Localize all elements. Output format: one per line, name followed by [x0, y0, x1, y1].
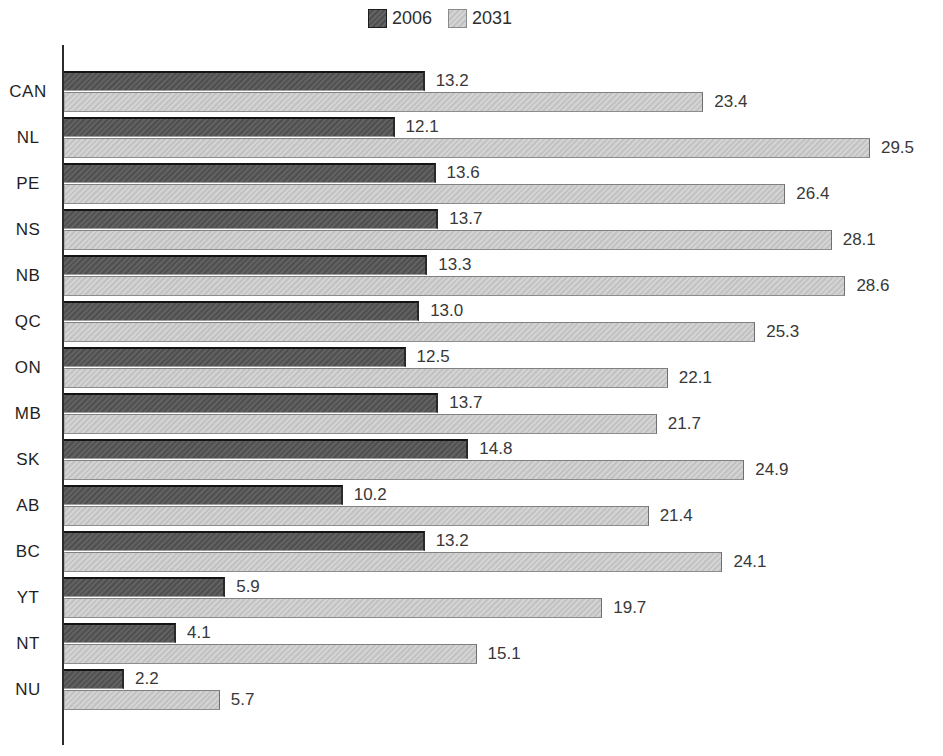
value-label: 13.6 — [447, 163, 480, 183]
bar-line-2006: 10.2 — [64, 485, 941, 505]
chart-row-QC: QC13.025.3 — [64, 301, 941, 342]
bar-line-2031: 24.9 — [64, 460, 941, 480]
bar-PE-2031 — [64, 184, 785, 204]
bar-line-2006: 14.8 — [64, 439, 941, 459]
bar-line-2031: 21.7 — [64, 414, 941, 434]
bar-line-2031: 25.3 — [64, 322, 941, 342]
bar-line-2006: 13.0 — [64, 301, 941, 321]
value-label: 14.8 — [479, 439, 512, 459]
category-label: NL — [0, 128, 56, 148]
bar-NT-2031 — [64, 644, 477, 664]
bar-ON-2006 — [64, 347, 406, 367]
bar-ON-2031 — [64, 368, 668, 388]
category-label: NS — [0, 220, 56, 240]
bar-line-2006: 5.9 — [64, 577, 941, 597]
bar-CAN-2006 — [64, 71, 425, 91]
value-label: 24.1 — [733, 552, 766, 572]
bar-MB-2031 — [64, 414, 657, 434]
category-label: NT — [0, 634, 56, 654]
bar-line-2006: 13.2 — [64, 531, 941, 551]
bar-BC-2006 — [64, 531, 425, 551]
bar-line-2031: 28.1 — [64, 230, 941, 250]
category-label: PE — [0, 174, 56, 194]
value-label: 28.6 — [856, 276, 889, 296]
category-label: NU — [0, 680, 56, 700]
bar-NU-2006 — [64, 669, 124, 689]
value-label: 24.9 — [755, 460, 788, 480]
value-label: 13.2 — [436, 71, 469, 91]
chart-row-ON: ON12.522.1 — [64, 347, 941, 388]
bar-line-2031: 26.4 — [64, 184, 941, 204]
bar-line-2006: 4.1 — [64, 623, 941, 643]
bar-line-2031: 24.1 — [64, 552, 941, 572]
chart-row-SK: SK14.824.9 — [64, 439, 941, 480]
bar-line-2031: 22.1 — [64, 368, 941, 388]
category-label: BC — [0, 542, 56, 562]
category-label: MB — [0, 404, 56, 424]
bar-YT-2006 — [64, 577, 225, 597]
bar-line-2006: 13.7 — [64, 209, 941, 229]
bar-line-2031: 19.7 — [64, 598, 941, 618]
chart-row-NB: NB13.328.6 — [64, 255, 941, 296]
chart-row-NU: NU2.25.7 — [64, 669, 941, 710]
value-label: 29.5 — [881, 138, 914, 158]
category-label: QC — [0, 312, 56, 332]
value-label: 5.7 — [231, 690, 255, 710]
bar-line-2006: 12.1 — [64, 117, 941, 137]
value-label: 5.9 — [236, 577, 260, 597]
legend-item-2006: 2006 — [368, 8, 432, 29]
bar-line-2031: 15.1 — [64, 644, 941, 664]
bar-NL-2006 — [64, 117, 395, 137]
bar-line-2006: 13.7 — [64, 393, 941, 413]
chart-row-BC: BC13.224.1 — [64, 531, 941, 572]
category-label: SK — [0, 450, 56, 470]
value-label: 4.1 — [187, 623, 211, 643]
bar-PE-2006 — [64, 163, 436, 183]
legend-label: 2006 — [392, 8, 432, 29]
value-label: 25.3 — [766, 322, 799, 342]
bar-QC-2006 — [64, 301, 419, 321]
bar-line-2006: 12.5 — [64, 347, 941, 367]
bar-line-2031: 21.4 — [64, 506, 941, 526]
bar-QC-2031 — [64, 322, 755, 342]
category-label: AB — [0, 496, 56, 516]
bar-YT-2031 — [64, 598, 602, 618]
bar-line-2031: 23.4 — [64, 92, 941, 112]
value-label: 15.1 — [488, 644, 521, 664]
chart-legend: 20062031 — [0, 8, 880, 29]
chart-row-YT: YT5.919.7 — [64, 577, 941, 618]
category-label: YT — [0, 588, 56, 608]
chart-row-MB: MB13.721.7 — [64, 393, 941, 434]
bar-SK-2006 — [64, 439, 468, 459]
bar-line-2031: 28.6 — [64, 276, 941, 296]
value-label: 21.4 — [660, 506, 693, 526]
value-label: 28.1 — [843, 230, 876, 250]
bar-AB-2031 — [64, 506, 649, 526]
category-label: ON — [0, 358, 56, 378]
value-label: 23.4 — [714, 92, 747, 112]
value-label: 12.5 — [417, 347, 450, 367]
bar-BC-2031 — [64, 552, 722, 572]
bar-NT-2006 — [64, 623, 176, 643]
value-label: 26.4 — [796, 184, 829, 204]
value-label: 10.2 — [354, 485, 387, 505]
value-label: 13.7 — [449, 209, 482, 229]
plot-area: CAN13.223.4NL12.129.5PE13.626.4NS13.728.… — [62, 45, 941, 745]
legend-item-2031: 2031 — [448, 8, 512, 29]
value-label: 21.7 — [668, 414, 701, 434]
value-label: 13.0 — [430, 301, 463, 321]
value-label: 13.3 — [438, 255, 471, 275]
value-label: 22.1 — [679, 368, 712, 388]
bar-MB-2006 — [64, 393, 438, 413]
bar-AB-2006 — [64, 485, 343, 505]
legend-swatch-icon — [368, 9, 387, 28]
chart-row-NS: NS13.728.1 — [64, 209, 941, 250]
bar-line-2006: 13.6 — [64, 163, 941, 183]
bar-NU-2031 — [64, 690, 220, 710]
bar-NS-2006 — [64, 209, 438, 229]
bar-line-2006: 13.2 — [64, 71, 941, 91]
bar-CAN-2031 — [64, 92, 703, 112]
chart-row-AB: AB10.221.4 — [64, 485, 941, 526]
bar-NB-2031 — [64, 276, 845, 296]
bar-SK-2031 — [64, 460, 744, 480]
